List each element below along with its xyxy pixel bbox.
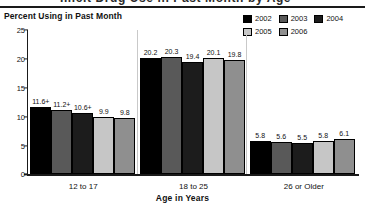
legend-label: 2002 — [255, 15, 272, 23]
y-tick-label: 25 — [3, 26, 25, 35]
bar-value-label: 10.6+ — [74, 104, 92, 111]
y-tick-mark — [24, 58, 28, 59]
bar-2005-12-to-17 — [93, 117, 114, 174]
bar-value-label: 5.6 — [276, 133, 286, 140]
bar-2002-18-to-25 — [140, 58, 161, 175]
bar-column: 11.6+ — [30, 30, 51, 174]
legend-row: 200220032004 — [243, 13, 365, 24]
bar-column: 20.2 — [140, 30, 161, 174]
bar-value-label: 20.2 — [144, 49, 158, 56]
bar-2002-26-or-older — [250, 141, 271, 175]
y-tick-label: 15 — [3, 83, 25, 92]
bar-column: 10.6+ — [72, 30, 93, 174]
bar-value-label: 6.1 — [339, 130, 349, 137]
group-bars: 11.6+11.2+10.6+9.99.8 — [30, 30, 135, 174]
bar-value-label: 19.8 — [228, 51, 242, 58]
y-tick-mark — [24, 87, 28, 88]
legend-label: 2004 — [326, 15, 343, 23]
legend-label: 2003 — [291, 15, 308, 23]
bar-2003-26-or-older — [271, 142, 292, 174]
bar-2005-26-or-older — [313, 141, 334, 175]
legend-item-2002: 2002 — [243, 15, 272, 23]
bar-value-label: 5.8 — [255, 132, 265, 139]
bar-2005-18-to-25 — [203, 58, 224, 174]
plot-area: 0510152025 11.6+11.2+10.6+9.99.820.220.3… — [27, 30, 357, 176]
y-tick-mark — [24, 145, 28, 146]
bar-2004-12-to-17 — [72, 113, 93, 174]
bar-value-label: 5.8 — [318, 132, 328, 139]
header-rule — [0, 6, 365, 8]
x-category-label: 18 to 25 — [138, 182, 248, 191]
bar-value-label: 20.3 — [165, 48, 179, 55]
y-tick-label: 0 — [3, 170, 25, 179]
bar-2006-18-to-25 — [224, 60, 245, 174]
bar-column: 19.8 — [224, 30, 245, 174]
bar-value-label: 9.8 — [120, 109, 130, 116]
bar-value-label: 19.4 — [186, 53, 200, 60]
legend-item-2003: 2003 — [279, 15, 308, 23]
bar-column: 11.2+ — [51, 30, 72, 174]
legend-swatch-icon — [243, 15, 252, 23]
y-tick-mark — [24, 29, 28, 30]
bar-value-label: 20.1 — [207, 49, 221, 56]
bar-2004-26-or-older — [292, 143, 313, 175]
y-tick-mark — [24, 116, 28, 117]
y-tick-label: 5 — [3, 141, 25, 150]
bar-column: 20.3 — [161, 30, 182, 174]
bar-2004-18-to-25 — [182, 62, 203, 174]
bar-value-label: 9.9 — [99, 108, 109, 115]
bar-2006-12-to-17 — [114, 118, 135, 175]
clipped-header-text: Illicit Drug Use in Past Month by Age — [60, 0, 291, 5]
bar-column: 20.1 — [203, 30, 224, 174]
x-category-label: 26 or Older — [249, 182, 359, 191]
legend-item-2004: 2004 — [314, 15, 343, 23]
group-bars: 5.85.65.55.86.1 — [250, 30, 355, 174]
group-bars: 20.220.319.420.119.8 — [140, 30, 245, 174]
y-axis-title: Percent Using in Past Month — [4, 11, 122, 21]
legend-swatch-icon — [279, 15, 288, 23]
bar-column: 19.4 — [182, 30, 203, 174]
bar-group-18-to-25: 20.220.319.420.119.8 — [138, 30, 248, 174]
x-axis-title: Age in Years — [0, 193, 365, 203]
bar-2003-18-to-25 — [161, 57, 182, 174]
bar-2003-12-to-17 — [51, 110, 72, 175]
legend-swatch-icon — [314, 15, 323, 23]
y-tick-mark — [24, 174, 28, 175]
bar-value-label: 11.2+ — [53, 101, 70, 108]
y-tick-label: 20 — [3, 54, 25, 63]
bar-2006-26-or-older — [334, 139, 355, 174]
x-axis-line — [27, 174, 359, 176]
bar-chart-figure: Illicit Drug Use in Past Month by Age Pe… — [0, 0, 365, 205]
bar-value-label: 5.5 — [297, 134, 307, 141]
bar-column: 5.6 — [271, 30, 292, 174]
bar-group-26-or-older: 5.85.65.55.86.1 — [247, 30, 357, 174]
bar-2002-12-to-17 — [30, 107, 51, 174]
bar-value-label: 11.6+ — [32, 98, 49, 105]
bar-column: 6.1 — [334, 30, 355, 174]
bar-column: 5.8 — [313, 30, 334, 174]
bar-group-12-to-17: 11.6+11.2+10.6+9.99.8 — [28, 30, 138, 174]
bar-column: 5.5 — [292, 30, 313, 174]
bar-column: 9.9 — [93, 30, 114, 174]
bar-column: 5.8 — [250, 30, 271, 174]
x-category-label: 12 to 17 — [28, 182, 138, 191]
bar-column: 9.8 — [114, 30, 135, 174]
bar-groups: 11.6+11.2+10.6+9.99.820.220.319.420.119.… — [28, 30, 357, 174]
y-tick-label: 10 — [3, 112, 25, 121]
